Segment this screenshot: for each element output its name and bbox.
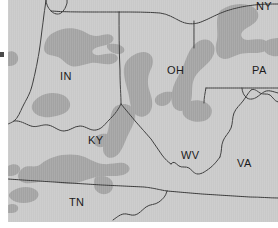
- shaded-region-tennessee-band: [18, 154, 130, 184]
- state-label-in: IN: [60, 71, 72, 82]
- state-label-tn: TN: [69, 197, 84, 208]
- shaded-region-north-indiana-spur: [107, 44, 124, 54]
- shaded-region-central-kentucky: [103, 104, 135, 158]
- boundary-west-virginia-panhandle: [204, 88, 206, 103]
- boundary-tennessee-north-carolina: [113, 191, 167, 220]
- map-plate: IN OH PA NY KY WV VA TN: [8, 0, 278, 222]
- state-label-wv: WV: [181, 150, 200, 161]
- state-label-ky: KY: [88, 135, 103, 146]
- map-figure: IN OH PA NY KY WV VA TN: [0, 0, 278, 228]
- map-graphic: [8, 0, 278, 222]
- shaded-region-southern-indiana: [32, 93, 70, 117]
- shaded-region-ohio-wv-lobe: [182, 100, 211, 122]
- shaded-region-northern-indiana: [44, 28, 118, 66]
- boundary-west-virginia-virginia: [220, 90, 251, 157]
- state-label-ny: NY: [256, 1, 272, 12]
- axis-tick-mark: [0, 52, 4, 57]
- shaded-region-illinois-sliver: [8, 51, 18, 66]
- boundary-tennessee-virginia: [167, 191, 278, 198]
- shaded-region-southwest-blob: [9, 187, 39, 203]
- shaded-region-corridor-west-bump: [155, 92, 172, 106]
- boundary-indiana-ohio: [119, 12, 121, 104]
- state-label-va: VA: [237, 158, 252, 169]
- boundary-indiana-michigan: [51, 11, 119, 12]
- shaded-region-southwest-tail: [8, 204, 18, 213]
- state-label-pa: PA: [252, 65, 267, 76]
- state-label-oh: OH: [167, 65, 184, 76]
